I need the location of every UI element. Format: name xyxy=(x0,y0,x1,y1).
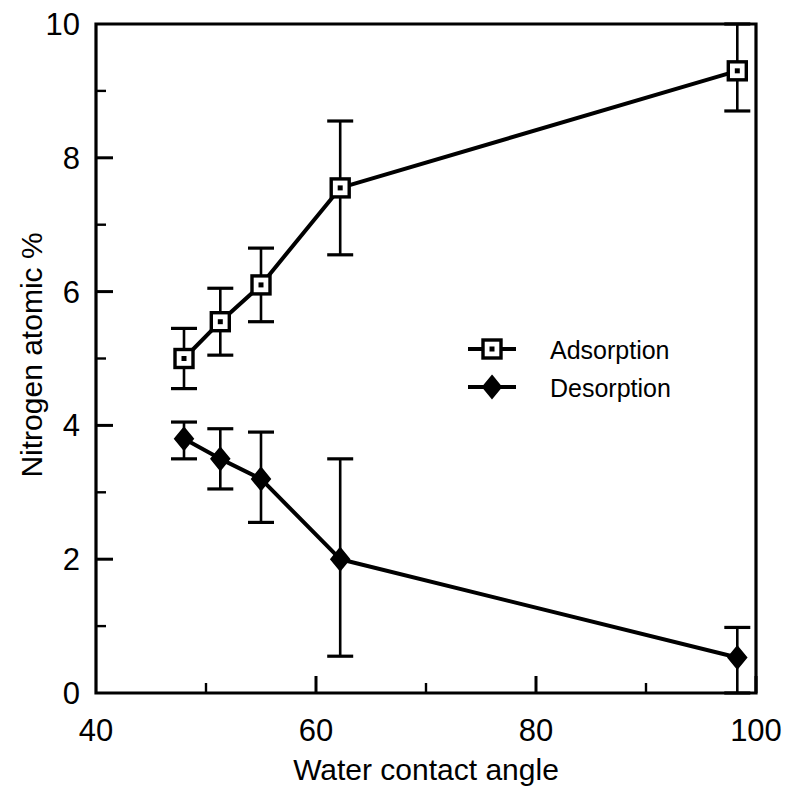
x-tick-label: 40 xyxy=(79,713,113,748)
x-tick-label: 100 xyxy=(730,713,782,748)
x-tick-label: 80 xyxy=(519,713,553,748)
legend-label: Desorption xyxy=(550,374,671,402)
data-point xyxy=(252,276,270,294)
marker-center-dot xyxy=(218,319,223,324)
data-point xyxy=(331,179,349,197)
y-tick-label: 10 xyxy=(46,7,80,42)
data-point xyxy=(211,313,229,331)
legend-label: Adsorption xyxy=(550,336,670,364)
marker-center-dot xyxy=(259,282,264,287)
y-tick-label: 0 xyxy=(63,676,80,711)
y-axis-title: Nitrogen atomic % xyxy=(15,232,48,477)
y-tick-label: 6 xyxy=(63,275,80,310)
chart-background xyxy=(0,0,792,797)
y-tick-label: 8 xyxy=(63,141,80,176)
scatter-line-chart: 0246810 406080100 AdsorptionDesorption W… xyxy=(0,0,792,797)
chart-figure: 0246810 406080100 AdsorptionDesorption W… xyxy=(0,0,792,797)
x-tick-label: 60 xyxy=(299,713,333,748)
marker-center-dot xyxy=(490,347,495,352)
y-tick-label: 4 xyxy=(63,408,80,443)
data-point xyxy=(728,62,746,80)
data-point xyxy=(175,350,193,368)
marker-center-dot xyxy=(735,68,740,73)
marker-center-dot xyxy=(182,356,187,361)
marker-center-dot xyxy=(338,185,343,190)
x-axis-title: Water contact angle xyxy=(293,753,559,786)
y-tick-label: 2 xyxy=(63,542,80,577)
